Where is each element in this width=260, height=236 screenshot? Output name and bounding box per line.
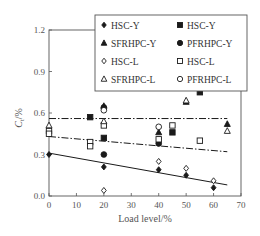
legend-label: PFRHPC-Y bbox=[187, 39, 233, 49]
open-circle-marker-icon bbox=[156, 124, 162, 130]
x-tick-label: 20 bbox=[99, 200, 109, 210]
open-triangle-marker-icon bbox=[46, 122, 52, 128]
y-tick-label: 0.9 bbox=[34, 67, 46, 77]
y-tick-label: 0.3 bbox=[34, 150, 46, 160]
legend-label: HSC-L bbox=[187, 57, 215, 67]
fit-line bbox=[49, 153, 227, 185]
x-tick-label: 0 bbox=[47, 200, 52, 210]
x-tick-label: 50 bbox=[182, 200, 192, 210]
filled-circle-marker-icon bbox=[177, 40, 182, 45]
open-triangle-marker-icon bbox=[183, 97, 189, 103]
legend-label: HSC-L bbox=[111, 57, 139, 67]
open-square-marker-icon bbox=[156, 137, 161, 142]
open-triangle-marker-icon bbox=[224, 128, 230, 134]
data-points bbox=[46, 90, 230, 194]
filled-square-marker-icon bbox=[170, 130, 175, 135]
open-square-marker-icon bbox=[170, 123, 175, 128]
legend-label: SFRHPC-L bbox=[111, 75, 156, 85]
filled-diamond-marker-icon bbox=[156, 167, 161, 173]
legend: HSC-YHSC-YSFRHPC-YPFRHPC-YHSC-LHSC-LSFRH… bbox=[95, 15, 247, 91]
y-tick-label: 0.6 bbox=[34, 108, 46, 118]
open-square-marker-icon bbox=[197, 138, 202, 143]
filled-circle-marker-icon bbox=[101, 152, 107, 158]
x-tick-label: 30 bbox=[127, 200, 137, 210]
filled-square-marker-icon bbox=[87, 114, 92, 119]
x-tick-label: 70 bbox=[237, 200, 247, 210]
y-axis-label-suffix: /% bbox=[13, 108, 24, 119]
legend-label: PFRHPC-L bbox=[187, 75, 232, 85]
open-square-marker-icon bbox=[46, 131, 51, 136]
open-square-marker-icon bbox=[87, 144, 92, 149]
open-circle-marker-icon bbox=[177, 76, 182, 81]
legend-label: HSC-Y bbox=[187, 21, 216, 31]
filled-diamond-marker-icon bbox=[47, 152, 52, 158]
filled-square-marker-icon bbox=[101, 135, 106, 140]
x-tick-label: 40 bbox=[154, 200, 164, 210]
y-axis-label: Ct/% bbox=[13, 108, 26, 128]
fit-lines bbox=[49, 119, 227, 185]
filled-diamond-marker-icon bbox=[101, 164, 106, 170]
open-diamond-marker-icon bbox=[101, 187, 106, 193]
legend-label: SFRHPC-Y bbox=[111, 39, 157, 49]
scatter-chart: 0102030405060700.00.30.60.91.2 HSC-YHSC-… bbox=[0, 0, 260, 236]
open-diamond-marker-icon bbox=[156, 158, 161, 164]
x-tick-label: 10 bbox=[72, 200, 82, 210]
y-tick-label: 1.2 bbox=[34, 25, 45, 35]
filled-square-marker-icon bbox=[177, 22, 182, 27]
y-tick-label: 0.0 bbox=[34, 191, 46, 201]
open-diamond-marker-icon bbox=[184, 165, 189, 171]
legend-label: HSC-Y bbox=[111, 21, 140, 31]
open-circle-marker-icon bbox=[101, 107, 107, 113]
filled-diamond-marker-icon bbox=[211, 185, 216, 191]
filled-triangle-marker-icon bbox=[224, 121, 230, 127]
x-axis-label: Load level/% bbox=[118, 213, 172, 224]
x-tick-label: 60 bbox=[209, 200, 219, 210]
open-square-marker-icon bbox=[177, 58, 182, 63]
